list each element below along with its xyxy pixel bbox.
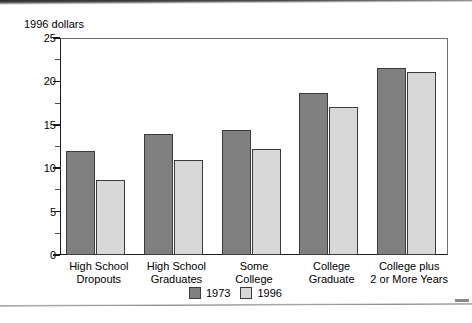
y-tick-minor: [55, 59, 60, 60]
x-category-label: College plus2 or More Years: [349, 260, 469, 285]
legend-swatch-icon: [189, 287, 201, 299]
legend-item-1973: 1973: [189, 287, 230, 299]
legend-item-1996: 1996: [240, 287, 281, 299]
bar-1973-2: [222, 130, 251, 255]
bar-1996-1: [174, 160, 203, 255]
y-tick-major: [53, 37, 60, 39]
y-tick-major: [53, 124, 60, 126]
y-tick-major: [53, 254, 60, 256]
bar-1973-0: [66, 151, 95, 255]
legend-label: 1973: [206, 287, 230, 299]
legend-swatch-icon: [240, 287, 252, 299]
y-tick-major: [53, 81, 60, 83]
y-tick-minor: [55, 189, 60, 190]
y-tick-minor: [55, 103, 60, 104]
chart-legend: 19731996: [189, 287, 282, 299]
bar-chart-figure: 1996 dollars 0510152025 High SchoolDropo…: [0, 0, 472, 323]
legend-label: 1996: [257, 287, 281, 299]
bar-1996-0: [96, 180, 125, 255]
bar-1973-4: [377, 68, 406, 255]
bar-1973-3: [299, 93, 328, 255]
x-category-label-line: 2 or More Years: [349, 273, 469, 286]
bar-1996-3: [329, 107, 358, 255]
y-tick-major: [53, 167, 60, 169]
y-tick-minor: [55, 146, 60, 147]
y-tick-minor: [55, 233, 60, 234]
bar-1973-1: [144, 134, 173, 255]
x-category-label-line: College plus: [349, 260, 469, 273]
bar-1996-4: [407, 72, 436, 255]
scan-right-mark: [455, 299, 469, 302]
bar-1996-2: [252, 149, 281, 255]
y-tick-major: [53, 211, 60, 213]
scan-bottom-text: [18, 313, 218, 323]
